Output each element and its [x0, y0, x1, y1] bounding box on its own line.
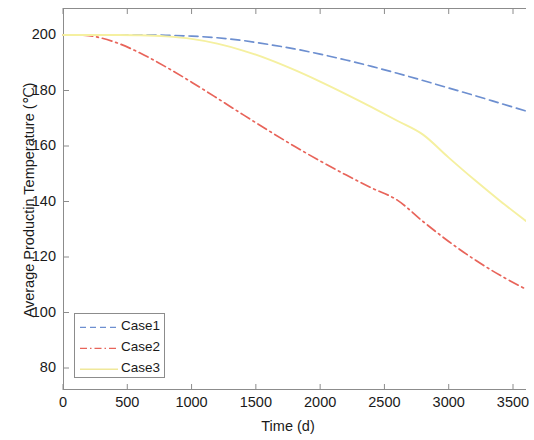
x-tick-label: 3500 [483, 394, 534, 410]
x-tick-label: 0 [33, 394, 93, 410]
legend-swatch-case1 [80, 326, 118, 328]
legend-label-case3: Case3 [121, 360, 160, 375]
legend-item-case2: Case2 [75, 337, 166, 358]
legend-item-case3: Case3 [75, 358, 166, 379]
y-tick-label: 100 [8, 304, 56, 320]
x-tick-label: 1500 [226, 394, 286, 410]
y-tick-label: 180 [8, 82, 56, 98]
y-tick-label: 140 [8, 193, 56, 209]
x-tick-label: 1000 [162, 394, 222, 410]
legend-label-case1: Case1 [121, 318, 160, 333]
x-tick-label: 2500 [354, 394, 414, 410]
y-tick-label: 80 [8, 359, 56, 375]
y-tick-label: 200 [8, 26, 56, 42]
series-line-case1 [63, 35, 526, 111]
legend-item-case1: Case1 [75, 316, 166, 337]
chart-legend: Case1 Case2 Case3 [74, 313, 165, 378]
x-tick-label: 500 [97, 394, 157, 410]
x-tick-label: 2000 [290, 394, 350, 410]
x-axis-label: Time (d) [63, 418, 513, 434]
series-line-case2 [63, 35, 526, 289]
legend-label-case2: Case2 [121, 339, 160, 354]
series-line-case3 [63, 35, 526, 221]
legend-swatch-case2 [80, 347, 118, 349]
data-series-layer [63, 35, 526, 289]
y-tick-label: 160 [8, 137, 56, 153]
y-tick-label: 120 [8, 248, 56, 264]
legend-swatch-case3 [80, 368, 118, 370]
x-tick-label: 3000 [419, 394, 479, 410]
